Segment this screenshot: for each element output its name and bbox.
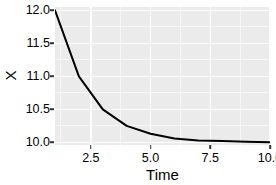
x-axis-tick-mark — [209, 145, 211, 149]
x-axis-title: Time — [55, 166, 270, 183]
y-axis-tick-labels: 10.010.511.011.512.0 — [14, 0, 50, 185]
x-axis-tick-mark — [269, 145, 271, 149]
y-axis-tick-label: 11.5 — [27, 36, 50, 50]
y-axis-tick-label: 11.0 — [27, 69, 50, 83]
y-axis-tick-mark — [50, 142, 54, 144]
y-axis-tick-mark — [50, 43, 54, 45]
y-axis-tick-mark — [50, 109, 54, 111]
y-axis-tick-label: 10.5 — [26, 102, 50, 116]
series-line-x — [55, 10, 270, 142]
x-axis-tick-label: 2.5 — [82, 151, 99, 165]
y-axis-tick-mark — [50, 10, 54, 12]
data-series-layer — [55, 7, 270, 145]
y-axis-tick-label: 12.0 — [26, 3, 50, 17]
x-axis-tick-label: 10.0 — [258, 151, 276, 165]
chart-container: X 10.010.511.011.512.0 2.55.07.510.0 Tim… — [0, 0, 276, 185]
x-axis-tick-label: 7.5 — [202, 151, 219, 165]
y-axis-tick-label: 10.0 — [26, 135, 50, 149]
plot-panel — [55, 7, 270, 145]
x-axis-tick-mark — [150, 145, 152, 149]
y-axis-tick-mark — [50, 76, 54, 78]
x-axis-tick-label: 5.0 — [142, 151, 159, 165]
x-axis-tick-mark — [90, 145, 92, 149]
